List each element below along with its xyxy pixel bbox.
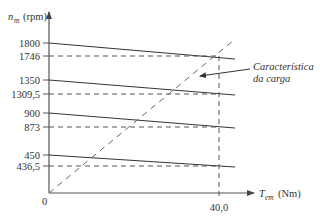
operating-point-refs xyxy=(49,56,219,166)
svg-text:Característica: Característica xyxy=(253,61,314,72)
y-tick-1350: 1350 xyxy=(19,75,40,86)
svg-text:(Nm): (Nm) xyxy=(278,188,301,200)
line-450 xyxy=(49,155,235,167)
load-characteristic-line xyxy=(49,40,234,193)
annotation-arrow xyxy=(200,69,250,76)
svg-text:m: m xyxy=(14,16,20,25)
y-tick-900: 900 xyxy=(24,108,40,119)
y-tick-450: 450 xyxy=(24,150,40,161)
line-900 xyxy=(49,113,235,128)
svg-text:(rpm): (rpm) xyxy=(23,11,47,23)
y-tick-1746: 1746 xyxy=(19,51,40,62)
y-tick-marks xyxy=(43,43,49,166)
x-axis-label: T em (Nm) xyxy=(259,188,301,202)
line-1800 xyxy=(49,43,235,59)
y-tick-873: 873 xyxy=(24,122,40,133)
y-tick-1800: 1800 xyxy=(19,38,40,49)
torque-speed-lines xyxy=(49,43,235,167)
origin-label: 0 xyxy=(42,196,47,207)
svg-text:em: em xyxy=(265,193,274,202)
y-tick-1309-5: 1309,5 xyxy=(11,89,40,100)
x-tick-40: 40,0 xyxy=(210,202,228,213)
svg-text:da carga: da carga xyxy=(253,73,290,84)
chart-canvas: 1800 1746 1350 1309,5 900 873 450 436,5 … xyxy=(0,0,320,224)
y-axis-label: n m (rpm) xyxy=(8,11,47,25)
y-tick-436-5: 436,5 xyxy=(16,161,40,172)
svg-text:n: n xyxy=(8,11,13,22)
load-characteristic-annotation: Característica da carga xyxy=(253,61,314,84)
line-1350 xyxy=(49,80,235,95)
